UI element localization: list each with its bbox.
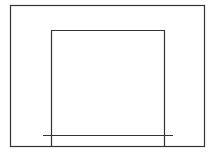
inner-opening-outline	[52, 31, 165, 147]
outer-frame-rectangle	[11, 6, 205, 147]
line-diagram	[0, 0, 212, 156]
